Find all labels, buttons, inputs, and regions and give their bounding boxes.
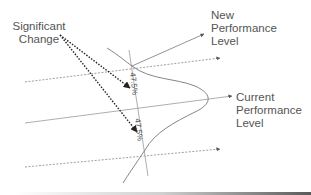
label-line: Change	[9, 33, 69, 46]
label-line: Level	[211, 35, 277, 48]
bottom-divider	[14, 192, 311, 195]
label-line: Performance	[236, 104, 302, 117]
label-line: Performance	[211, 22, 277, 35]
label-line: Significant	[9, 20, 69, 33]
lower-dashed-line	[25, 149, 220, 167]
current-performance-label: Current Performance Level	[236, 91, 302, 130]
significant-change-arrow-2	[60, 35, 137, 132]
new-performance-label: New Performance Level	[211, 9, 277, 48]
label-line: New	[211, 9, 277, 22]
axis-line	[129, 50, 148, 176]
current-level-line	[25, 96, 232, 123]
significant-change-label: Significant Change	[9, 20, 69, 46]
distribution-curve	[107, 48, 208, 183]
label-line: Level	[236, 117, 302, 130]
label-line: Current	[236, 91, 302, 104]
upper-dashed-line	[25, 58, 220, 82]
